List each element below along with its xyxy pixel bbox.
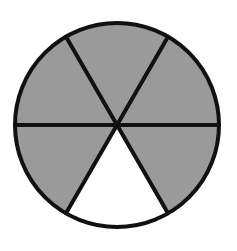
- fraction-circle: [0, 0, 237, 251]
- fraction-circle-figure: [0, 0, 237, 251]
